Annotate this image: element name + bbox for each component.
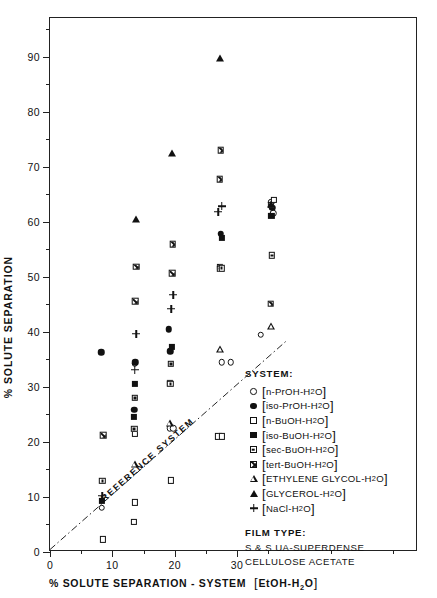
y-axis-tick-label: 70: [28, 161, 40, 173]
legend-item[interactable]: [ETHYLENE GLYCOL-H2O]: [245, 472, 425, 487]
y-axis-tick: [43, 222, 50, 223]
y-axis-tick: [43, 112, 50, 113]
circle-filled-icon: [250, 403, 257, 410]
square-open-icon: [250, 417, 256, 423]
data-point: [219, 433, 225, 439]
data-point: [218, 359, 225, 366]
legend-symbol-icon: [245, 432, 262, 438]
x-axis-title-prefix: % SOLUTE SEPARATION - SYSTEM: [49, 577, 246, 589]
legend-title: SYSTEM:: [245, 368, 425, 379]
legend-symbol-icon: [245, 403, 262, 410]
legend-item-label: [n-BuOH-H2O]: [262, 413, 329, 428]
legend-symbol-icon: [245, 504, 262, 512]
data-point: [267, 322, 275, 329]
legend-item[interactable]: [n-PrOH-H2O]: [245, 384, 425, 399]
data-point: [216, 346, 224, 353]
circle-open-icon: [250, 388, 257, 395]
data-point: [168, 477, 174, 483]
y-axis-tick: [43, 497, 50, 498]
legend-item[interactable]: [NaCl-H2O]: [245, 501, 425, 516]
data-point: [130, 414, 136, 420]
legend-item[interactable]: [sec-BuOH-H2O]: [245, 442, 425, 457]
data-point: [132, 330, 140, 338]
y-axis-tick-label: 80: [28, 106, 40, 118]
x-axis-tick: [50, 550, 51, 557]
data-point: [216, 54, 224, 61]
x-axis-tick: [112, 550, 113, 557]
x-axis-title-end: O: [305, 577, 314, 589]
triangle-filled-icon: [250, 490, 258, 497]
film-type-title: FILM TYPE:: [245, 527, 425, 538]
legend-item-label: [ETHYLENE GLYCOL-H2O]: [262, 471, 388, 486]
x-axis-tick-label: 0: [47, 559, 53, 571]
x-axis-tick-label: 10: [106, 559, 118, 571]
y-axis-minor-tick: [46, 29, 50, 30]
square-dot-icon: [250, 446, 256, 452]
legend-item-label: [NaCl-H2O]: [262, 501, 315, 516]
y-axis-minor-tick: [46, 359, 50, 360]
legend-item[interactable]: [GLYCEROL-H2O]: [245, 486, 425, 501]
data-point: [131, 461, 139, 468]
data-point: [218, 265, 224, 271]
y-axis-minor-tick: [46, 304, 50, 305]
legend-item[interactable]: [tert-BuOH-H2O]: [245, 457, 425, 472]
legend-item[interactable]: [iso-BuOH-H2O]: [245, 428, 425, 443]
data-point: [98, 492, 106, 500]
x-axis-tick-label: 20: [168, 559, 180, 571]
legend-item-label: [tert-BuOH-H2O]: [262, 457, 338, 472]
data-point: [131, 366, 139, 374]
data-point: [99, 478, 105, 484]
legend-symbol-icon: [245, 475, 262, 482]
data-point: [131, 407, 138, 414]
legend: SYSTEM: [n-PrOH-H2O][iso-PrOH-H2O][n-BuO…: [245, 368, 425, 567]
data-point: [132, 381, 138, 387]
x-axis-title-bracket: EtOH-H: [258, 577, 300, 589]
y-axis-tick-label: 10: [28, 491, 40, 503]
data-point: [168, 361, 174, 367]
data-point: [132, 395, 138, 401]
data-point: [258, 331, 265, 338]
y-axis-tick: [43, 57, 50, 58]
y-axis-tick: [43, 442, 50, 443]
y-axis-tick-label: 0: [34, 546, 40, 558]
data-point: [216, 176, 223, 183]
y-axis-tick: [43, 167, 50, 168]
legend-item[interactable]: [n-BuOH-H2O]: [245, 413, 425, 428]
legend-symbol-icon: [245, 490, 262, 497]
y-axis-title: % SOLUTE SEPARATION: [2, 256, 14, 398]
legend-symbol-icon: [245, 417, 262, 423]
y-axis-tick: [43, 332, 50, 333]
x-axis-title: % SOLUTE SEPARATION - SYSTEM [EtOH-H2O]: [49, 575, 318, 592]
data-point: [167, 381, 173, 387]
data-point: [267, 200, 275, 207]
y-axis-tick-label: 50: [28, 271, 40, 283]
x-axis-tick-label: 30: [231, 559, 243, 571]
data-point: [132, 499, 138, 505]
legend-item-label: [GLYCEROL-H2O]: [262, 486, 346, 501]
x-axis-tick: [175, 550, 176, 557]
y-axis-tick-label: 60: [28, 216, 40, 228]
bracket-close: ]: [314, 575, 318, 590]
data-point: [166, 420, 174, 427]
y-axis-minor-tick: [46, 469, 50, 470]
legend-item-label: [n-PrOH-H2O]: [262, 384, 326, 399]
legend-symbol-icon: [245, 446, 262, 452]
data-point: [218, 235, 224, 241]
y-axis-minor-tick: [46, 194, 50, 195]
y-axis-minor-tick: [46, 84, 50, 85]
data-point: [169, 344, 175, 350]
data-point: [218, 147, 225, 154]
y-axis-tick-label: 90: [28, 51, 40, 63]
data-point: [131, 426, 137, 432]
x-axis-tick: [237, 550, 238, 557]
data-point: [168, 149, 176, 156]
y-axis-minor-tick: [46, 139, 50, 140]
data-point: [132, 298, 139, 305]
y-axis-tick-label: 20: [28, 436, 40, 448]
data-point: [169, 291, 177, 299]
y-axis-minor-tick: [46, 524, 50, 525]
legend-symbol-icon: [245, 388, 262, 395]
legend-item[interactable]: [iso-PrOH-H2O]: [245, 399, 425, 414]
y-axis-tick: [43, 277, 50, 278]
y-axis-minor-tick: [46, 414, 50, 415]
